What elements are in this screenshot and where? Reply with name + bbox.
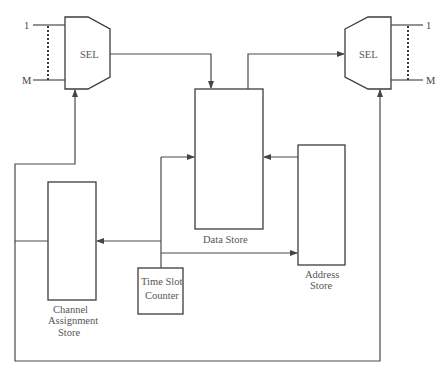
channel-assignment-store-label-1: Channel [53, 304, 88, 315]
right-selector: SEL [345, 17, 391, 89]
data-store-box [195, 89, 263, 229]
right-output-1-label: 1 [426, 20, 431, 31]
data-store-to-right-sel-arrow [248, 54, 344, 89]
time-slot-counter-label-2: Counter [145, 290, 179, 301]
data-store-label: Data Store [203, 234, 248, 245]
left-input-1-label: 1 [24, 20, 29, 31]
channel-assignment-store-label-3: Store [58, 327, 81, 338]
right-output-m-label: M [426, 75, 436, 86]
channel-assignment-store-label-2: Assignment [48, 315, 98, 326]
block-diagram: SEL 1 M SEL 1 M Data Store Address Store… [0, 0, 446, 375]
left-selector: SEL [65, 17, 110, 89]
left-sel-to-data-store-arrow [110, 54, 211, 88]
channel-assignment-store-box [48, 182, 96, 300]
left-selector-label: SEL [80, 49, 99, 60]
right-selector-label: SEL [359, 49, 378, 60]
time-slot-counter-label-1: Time Slot [141, 276, 182, 287]
address-store-label-2: Store [310, 280, 333, 291]
left-input-m-label: M [22, 75, 32, 86]
address-store-box [298, 145, 345, 265]
address-store-label-1: Address [305, 269, 339, 280]
